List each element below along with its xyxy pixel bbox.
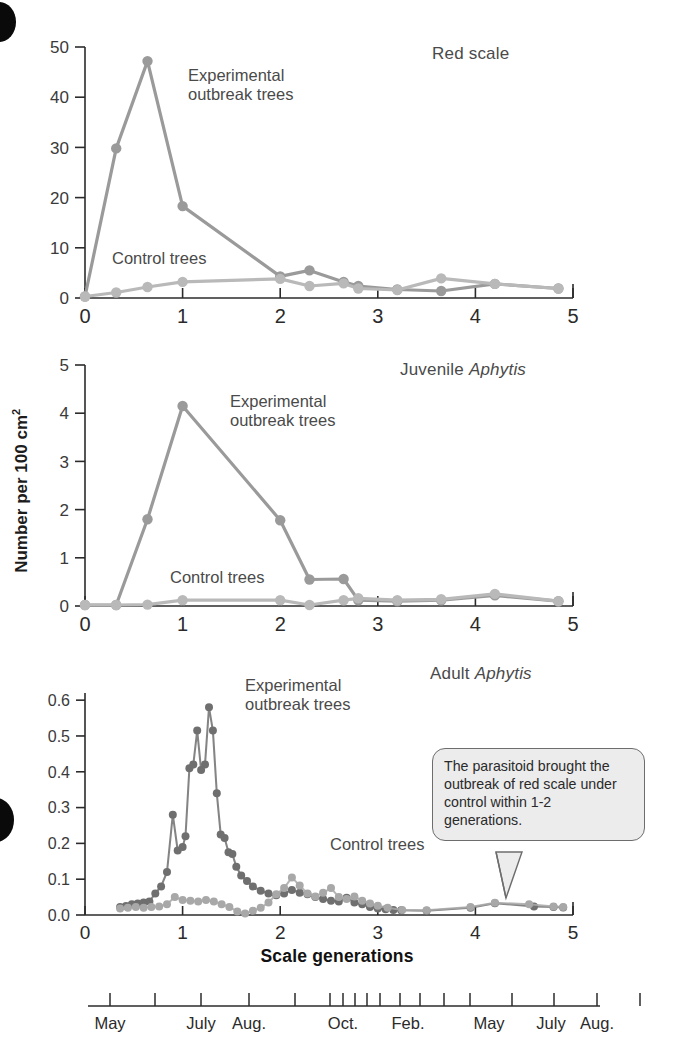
panel-title-text: Red scale — [432, 44, 509, 63]
svg-text:5: 5 — [568, 922, 579, 943]
svg-text:0.6: 0.6 — [48, 692, 70, 709]
series-label-control-1: Control trees — [112, 249, 206, 268]
panel-title-red-scale: Red scale — [432, 44, 509, 64]
series-label-line1: Experimental — [230, 392, 335, 411]
series-label-line2: outbreak trees — [245, 695, 350, 714]
callout-text: The parasitoid brought the outbreak of r… — [444, 758, 617, 828]
chart-red-scale: 01020304050012345 — [0, 0, 674, 340]
svg-text:0.3: 0.3 — [48, 799, 70, 816]
month-label: Oct. — [328, 1014, 358, 1033]
svg-text:0.2: 0.2 — [48, 835, 70, 852]
series-label-experimental-1: Experimental outbreak trees — [188, 66, 293, 104]
svg-text:0: 0 — [60, 289, 69, 308]
svg-text:10: 10 — [50, 239, 69, 258]
panel-juvenile-aphytis: 012345012345 Juvenile Aphytis Experiment… — [0, 340, 674, 650]
chart-juvenile-aphytis: 012345012345 — [0, 340, 674, 650]
svg-text:5: 5 — [60, 356, 69, 375]
svg-text:3: 3 — [60, 453, 69, 472]
svg-text:0: 0 — [60, 597, 69, 616]
panel-red-scale: 01020304050012345 Red scale Experimental… — [0, 0, 674, 340]
series-label-experimental-3: Experimental outbreak trees — [245, 676, 350, 714]
svg-text:1: 1 — [177, 922, 188, 943]
series-label-control-2: Control trees — [170, 568, 264, 587]
month-label: May — [94, 1014, 125, 1033]
svg-text:40: 40 — [50, 88, 69, 107]
svg-text:3: 3 — [372, 613, 383, 635]
svg-text:0: 0 — [79, 613, 90, 635]
panel-title-adult-aphytis: Adult Aphytis — [430, 664, 532, 684]
svg-text:4: 4 — [470, 305, 481, 327]
month-label: Aug. — [232, 1014, 266, 1033]
svg-text:0.0: 0.0 — [48, 907, 70, 924]
svg-text:0: 0 — [79, 305, 90, 327]
svg-text:30: 30 — [50, 139, 69, 158]
svg-text:0.5: 0.5 — [48, 728, 70, 745]
series-label-line2: outbreak trees — [230, 411, 335, 430]
svg-text:3: 3 — [373, 922, 384, 943]
svg-text:0.1: 0.1 — [48, 871, 70, 888]
x-axis-title: Scale generations — [0, 946, 674, 967]
svg-text:0.4: 0.4 — [48, 764, 70, 781]
month-label: July — [186, 1014, 215, 1033]
panel-title-text: Adult — [430, 664, 475, 683]
series-label-line2: outbreak trees — [188, 85, 293, 104]
svg-text:5: 5 — [567, 613, 578, 635]
svg-text:4: 4 — [470, 613, 481, 635]
svg-text:1: 1 — [60, 549, 69, 568]
svg-text:50: 50 — [50, 38, 69, 57]
series-label-experimental-2: Experimental outbreak trees — [230, 392, 335, 430]
svg-text:4: 4 — [470, 922, 481, 943]
panel-title-italic: Aphytis — [475, 664, 532, 683]
month-label: Aug. — [580, 1014, 614, 1033]
svg-text:1: 1 — [177, 613, 188, 635]
month-label: Feb. — [391, 1014, 424, 1033]
svg-text:5: 5 — [567, 305, 578, 327]
month-axis: MayJulyAug.Oct.Feb.MayJulyAug. — [0, 984, 674, 1046]
svg-text:2: 2 — [60, 501, 69, 520]
month-label: May — [473, 1014, 504, 1033]
series-label-line1: Experimental — [188, 66, 293, 85]
svg-text:2: 2 — [275, 613, 286, 635]
svg-text:2: 2 — [275, 922, 286, 943]
svg-text:2: 2 — [275, 305, 286, 327]
svg-text:3: 3 — [372, 305, 383, 327]
callout-box: The parasitoid brought the outbreak of r… — [432, 748, 645, 841]
svg-text:1: 1 — [177, 305, 188, 327]
svg-text:0: 0 — [80, 922, 91, 943]
panel-title-juvenile-aphytis: Juvenile Aphytis — [400, 360, 526, 380]
series-label-line1: Experimental — [245, 676, 350, 695]
panel-title-text: Juvenile — [400, 360, 469, 379]
month-axis-ticks — [0, 984, 674, 1014]
panel-title-italic: Aphytis — [469, 360, 526, 379]
svg-text:20: 20 — [50, 189, 69, 208]
series-label-control-3: Control trees — [330, 835, 424, 854]
month-label: July — [536, 1014, 565, 1033]
figure-root: Number per 100 cm2 01020304050012345 Red… — [0, 0, 674, 1056]
svg-text:4: 4 — [60, 404, 69, 423]
